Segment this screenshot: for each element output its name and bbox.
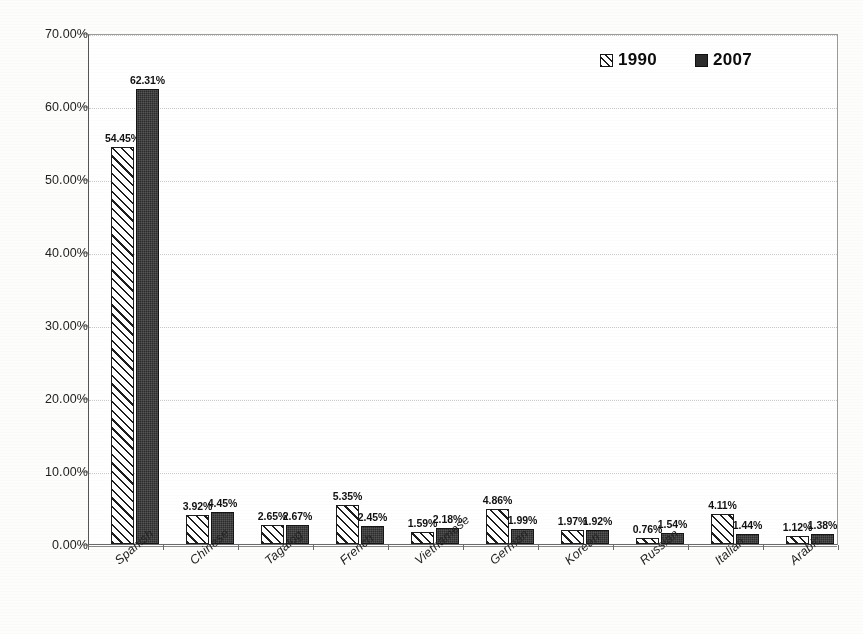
y-axis-tick-label: 10.00% [10, 465, 88, 479]
y-axis-tick-label: 60.00% [10, 100, 88, 114]
legend-item-1990[interactable]: 1990 [600, 50, 657, 70]
x-axis-tick-mark [688, 545, 689, 550]
y-axis-tick-label: 0.00% [10, 538, 88, 552]
x-axis-tick-mark [238, 545, 239, 550]
bar-value-label: 5.35% [333, 490, 362, 502]
bar-spanish-1990[interactable] [111, 147, 134, 544]
bar-german-1990[interactable] [486, 509, 509, 544]
y-axis-tick-label: 30.00% [10, 319, 88, 333]
bar-value-label: 4.11% [708, 499, 737, 511]
bar-value-label: 1.99% [508, 514, 537, 526]
filled-square-icon [695, 54, 708, 67]
x-axis-tick-mark [538, 545, 539, 550]
bar-french-1990[interactable] [336, 505, 359, 544]
bar-group: 1.97%1.92% [561, 35, 609, 544]
bar-value-label: 1.44% [733, 519, 762, 531]
bar-value-label: 54.45% [105, 132, 140, 144]
y-axis: 0.00%10.00%20.00%30.00%40.00%50.00%60.00… [0, 34, 88, 545]
legend-label: 2007 [713, 50, 752, 70]
bar-value-label: 2.67% [283, 510, 312, 522]
chart-legend: 1990 2007 [600, 50, 752, 70]
bar-value-label: 1.92% [583, 515, 612, 527]
plot-area: 54.45%62.31%3.92%4.45%2.65%2.67%5.35%2.4… [88, 34, 838, 545]
x-axis-tick-mark [838, 545, 839, 550]
bar-group: 4.86%1.99% [486, 35, 534, 544]
bar-value-label: 62.31% [130, 74, 165, 86]
y-axis-tick-label: 40.00% [10, 246, 88, 260]
x-axis-tick-mark [388, 545, 389, 550]
bar-value-label: 4.45% [208, 497, 237, 509]
y-axis-tick-label: 70.00% [10, 27, 88, 41]
legend-item-2007[interactable]: 2007 [695, 50, 752, 70]
bar-spanish-2007[interactable] [136, 89, 159, 544]
bar-group: 0.76%1.54% [636, 35, 684, 544]
bar-group: 5.35%2.45% [336, 35, 384, 544]
hatched-square-icon [600, 54, 613, 67]
bar-chart-figure: 0.00%10.00%20.00%30.00%40.00%50.00%60.00… [0, 0, 863, 634]
y-axis-tick-label: 20.00% [10, 392, 88, 406]
legend-label: 1990 [618, 50, 657, 70]
bar-value-label: 2.45% [358, 511, 387, 523]
bar-group: 1.59%2.18% [411, 35, 459, 544]
x-axis-tick-mark [313, 545, 314, 550]
bar-value-label: 4.86% [483, 494, 512, 506]
bar-group: 54.45%62.31% [111, 35, 159, 544]
x-axis-tick-mark [88, 545, 89, 550]
x-axis-category-labels: SpanishChineseTagalogFrenchVietnameseGer… [88, 545, 838, 634]
x-axis-tick-mark [763, 545, 764, 550]
bar-group: 1.12%1.38% [786, 35, 834, 544]
y-axis-tick-label: 50.00% [10, 173, 88, 187]
bar-group: 3.92%4.45% [186, 35, 234, 544]
x-axis-tick-mark [463, 545, 464, 550]
x-axis-tick-mark [613, 545, 614, 550]
bar-group: 2.65%2.67% [261, 35, 309, 544]
x-axis-tick-mark [163, 545, 164, 550]
bar-value-label: 1.38% [808, 519, 837, 531]
bar-group: 4.11%1.44% [711, 35, 759, 544]
